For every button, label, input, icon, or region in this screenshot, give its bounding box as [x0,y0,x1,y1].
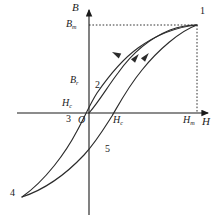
point-label-3: 3 [66,114,71,124]
hc-left-label: Hc [62,98,72,108]
hc-right-subscript: c [120,119,123,126]
hm-label: Hm [183,115,195,125]
hysteresis-figure: B H O Bm Br Hc Hc Hm 1 2 3 4 5 [0,0,220,220]
point-label-2: 2 [95,80,100,90]
point-label-4: 4 [10,188,15,198]
h-axis-label: H [202,116,210,127]
br-label: Br [70,75,79,85]
point-label-5: 5 [105,144,110,154]
axes-group [17,10,208,215]
bm-subscript: m [72,23,76,30]
br-subscript: r [76,79,78,86]
bm-label: Bm [66,19,77,29]
descending-branch-curve [22,25,197,197]
ascending-branch-arrow-outer-icon [141,51,151,61]
hm-subscript: m [190,119,194,126]
descending-branch-arrow-icon [111,50,121,59]
ascending-branch-curve [22,25,197,197]
hc-left-subscript: c [69,102,72,109]
direction-arrowheads [111,50,151,63]
point-label-1: 1 [200,6,205,16]
b-axis-label: B [72,2,79,13]
hc-right-label: Hc [113,115,123,125]
hysteresis-diagram-canvas [0,0,220,220]
origin-label: O [78,115,85,125]
hysteresis-curves [22,25,197,197]
ascending-branch-arrow-inner-icon [131,52,141,62]
